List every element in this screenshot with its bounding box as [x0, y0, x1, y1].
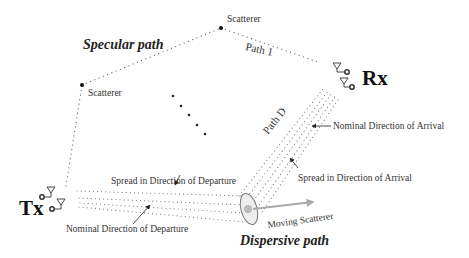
rx-antenna-array-icon	[333, 63, 354, 89]
nominal-direction-of-departure-label: Nominal Direction of Departure	[66, 224, 188, 234]
scatterer-left-point	[80, 83, 84, 87]
spread-direction-of-departure-label: Spread in Direction of Departure	[111, 176, 236, 186]
tx-label: Tx	[19, 196, 44, 220]
departure-spread-beams	[77, 191, 245, 222]
moving-scatterer-label: Moving Scatterer	[267, 211, 335, 230]
arrival-spread-beams	[239, 89, 340, 212]
dispersive-path-label: Dispersive path	[239, 233, 329, 248]
rx-label: Rx	[362, 66, 388, 90]
scatterer-top-point	[219, 26, 223, 30]
nominal-direction-of-arrival-label: Nominal Direction of Arrival	[333, 121, 444, 131]
tx-antenna-array-icon	[40, 187, 65, 211]
path-1-label: Path 1	[245, 40, 275, 58]
multipath-channel-diagram: Specular path Scatterer Scatterer Path 1…	[0, 0, 469, 258]
spread-direction-of-arrival-label: Spread in Direction of Arrival	[298, 173, 412, 183]
specular-path-label: Specular path	[83, 37, 164, 52]
scatterer-top-label: Scatterer	[227, 14, 262, 24]
scatterer-left-label: Scatterer	[88, 88, 123, 98]
path-d-label: Path D	[260, 105, 288, 136]
more-paths-ellipsis	[172, 95, 207, 136]
